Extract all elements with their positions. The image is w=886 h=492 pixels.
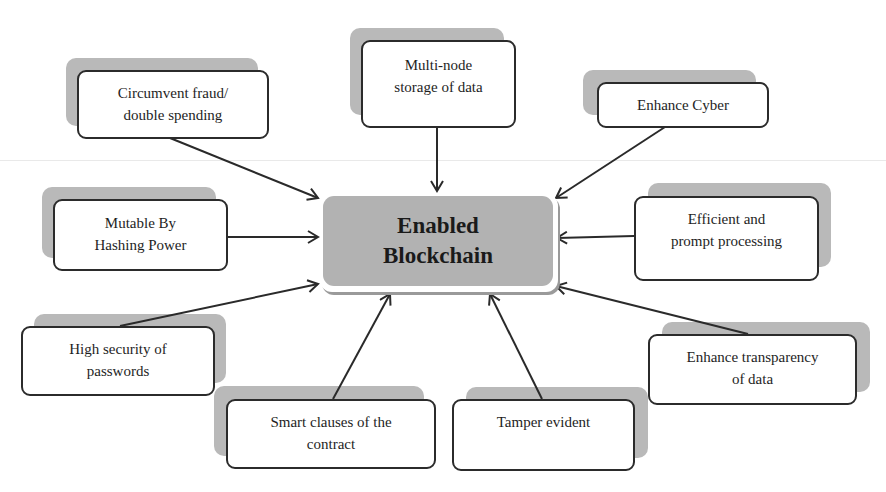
arrow-smart — [333, 294, 390, 399]
node-efficient-processing: Efficient andprompt processing — [634, 196, 819, 281]
node-label-line-1: Efficient and — [671, 208, 782, 230]
node-label-line-1: Enhance Cyber — [637, 94, 729, 116]
arrow-cyber — [556, 127, 665, 198]
node-label-line-1: Enhance transparency — [686, 346, 818, 368]
arrow-security — [120, 284, 318, 326]
arrow-efficient — [557, 236, 634, 238]
arrow-circumvent — [170, 138, 318, 198]
node-label-line-2: contract — [270, 433, 391, 455]
node-enhance-cyber: Enhance Cyber — [597, 82, 769, 128]
node-label-line-1: High security of — [69, 338, 166, 360]
node-high-security-passwords: High security ofpasswords — [21, 326, 215, 396]
node-enhance-transparency: Enhance transparencyof data — [648, 334, 857, 405]
node-label-line-1: Tamper evident — [497, 411, 591, 433]
node-label-line-2: of data — [686, 368, 818, 390]
node-label-line-1: Smart clauses of the — [270, 411, 391, 433]
node-label-line-1: Mutable By — [94, 212, 186, 234]
arrow-transparency — [556, 286, 748, 334]
node-label-line-2: prompt processing — [671, 230, 782, 252]
center-line-1: Enabled — [383, 211, 493, 241]
node-smart-clauses: Smart clauses of thecontract — [226, 399, 436, 469]
node-label-line-2: Hashing Power — [94, 234, 186, 256]
node-label-line-2: storage of data — [394, 76, 482, 98]
node-label-line-2: passwords — [69, 360, 166, 382]
arrow-tamper — [490, 294, 542, 399]
node-circumvent-fraud: Circumvent fraud/double spending — [77, 70, 269, 139]
center-line-2: Blockchain — [383, 241, 493, 271]
node-mutable-hashing: Mutable ByHashing Power — [53, 199, 228, 271]
node-label-line-1: Circumvent fraud/ — [118, 82, 228, 104]
node-tamper-evident: Tamper evident — [452, 399, 635, 471]
node-multi-node-storage: Multi-nodestorage of data — [361, 40, 516, 128]
node-label-line-1: Multi-node — [394, 54, 482, 76]
node-label-line-2: double spending — [118, 104, 228, 126]
center-node-enabled-blockchain: Enabled Blockchain — [323, 196, 553, 286]
